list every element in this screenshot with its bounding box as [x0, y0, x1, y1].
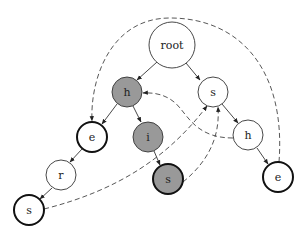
node-label: s: [165, 173, 171, 186]
node-r1: r: [46, 160, 76, 190]
node-e2: e: [263, 162, 293, 192]
edge-h-i: [133, 106, 141, 122]
edge-r-s: [40, 188, 52, 199]
node-i1: i: [133, 122, 163, 152]
edge-h-e2: [257, 148, 268, 164]
node-s3: s: [14, 195, 44, 225]
node-s2: s: [153, 164, 183, 194]
node-label: i: [146, 131, 150, 144]
node-label: h: [123, 86, 130, 99]
edge-h-e: [102, 104, 117, 124]
edge-s-h: [222, 104, 238, 123]
trie-diagram: roothseihrses: [0, 0, 302, 231]
node-label: h: [244, 129, 251, 142]
node-label: root: [161, 39, 185, 52]
node-h1: h: [112, 77, 142, 107]
node-e1: e: [77, 122, 107, 152]
node-root: root: [149, 22, 195, 68]
edge-root-h: [137, 62, 157, 80]
node-s1: s: [198, 77, 228, 107]
node-label: s: [26, 204, 32, 217]
node-label: r: [58, 169, 64, 182]
node-label: e: [275, 171, 282, 184]
node-label: e: [89, 131, 96, 144]
node-h2: h: [233, 120, 263, 150]
edge-e-r: [70, 149, 82, 162]
suffix-link-s-to-s-outer: [44, 106, 207, 209]
node-label: s: [210, 86, 216, 99]
edge-root-s: [186, 63, 200, 80]
